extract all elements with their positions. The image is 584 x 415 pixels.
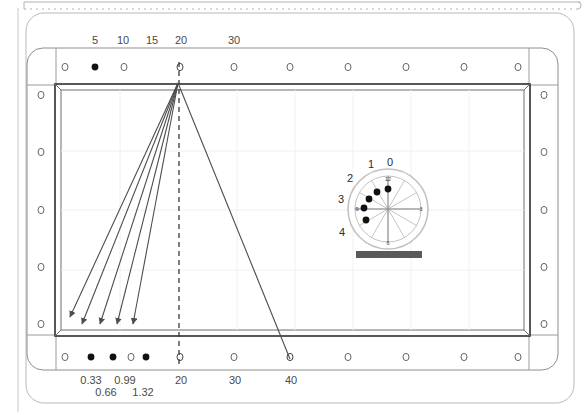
rail-diamond: [177, 353, 183, 360]
dial-tip-dot: [385, 186, 392, 193]
rail-diamond: [62, 353, 68, 360]
top-axis-label: 5: [92, 34, 98, 46]
dial-inner-label-3: 3: [419, 206, 422, 212]
dial-tip-dot: [374, 189, 381, 196]
bottom-axis-label: 1.32: [132, 386, 153, 398]
rail-diamond: [345, 353, 351, 360]
rail-diamond-filled: [143, 354, 150, 361]
dial-outer-label-0: 0: [387, 156, 393, 168]
dial-base-bar: [356, 251, 422, 258]
rail-diamond: [177, 63, 183, 70]
top-dotted-strip: [24, 2, 581, 9]
rail-diamond: [461, 63, 467, 70]
rail-diamond: [121, 63, 127, 70]
diagram-canvas: 5 10 15 20 30 0.33 0.66 0.99 1.32 20 30 …: [0, 0, 584, 415]
rail-diamond-filled: [92, 64, 99, 71]
rail-diamond: [461, 353, 467, 360]
dial-tip-dot: [361, 205, 368, 212]
rail-diamond: [38, 148, 44, 155]
rail-diamond: [403, 63, 409, 70]
dial-outer-label-1: 1: [368, 158, 374, 170]
dial-inner-label-12: 12: [385, 176, 391, 182]
dial-tip-dot: [363, 217, 370, 224]
rail-diamond: [541, 91, 547, 98]
rail-diamond: [231, 353, 237, 360]
bottom-axis-label: 40: [285, 374, 297, 386]
rail-diamond: [38, 91, 44, 98]
bottom-axis-labels: 0.33 0.66 0.99 1.32 20 30 40: [80, 374, 297, 398]
rail-diamond: [231, 63, 237, 70]
rail-diamond: [403, 353, 409, 360]
rail-diamond: [541, 320, 547, 327]
top-axis-label: 15: [146, 34, 158, 46]
rail-diamond: [38, 263, 44, 270]
bottom-axis-label: 0.66: [95, 386, 116, 398]
rail-diamond-filled: [88, 354, 95, 361]
rail-diamond: [128, 353, 134, 360]
top-axis-label: 10: [117, 34, 129, 46]
bottom-axis-label: 0.33: [80, 374, 101, 386]
rail-diamond: [345, 63, 351, 70]
dial-hub: [386, 207, 389, 210]
bottom-axis-label: 20: [175, 374, 187, 386]
rail-diamond: [287, 63, 293, 70]
top-axis-label: 20: [175, 34, 187, 46]
dial-inner-label-9: 9: [355, 206, 358, 212]
bottom-axis-label: 30: [229, 374, 241, 386]
dial-inner-label-6: 6: [386, 240, 389, 246]
rail-diamond: [38, 206, 44, 213]
rail-diamond: [62, 63, 68, 70]
rail-diamond-filled: [110, 354, 117, 361]
dial-tip-dot: [366, 196, 373, 203]
rail-diamond: [541, 206, 547, 213]
rail-diamond: [515, 353, 521, 360]
rail-diamond: [541, 148, 547, 155]
rail-diamond: [541, 263, 547, 270]
bottom-axis-label: 0.99: [114, 374, 135, 386]
dial-outer-label-3: 3: [338, 193, 344, 205]
top-axis-label: 30: [228, 34, 240, 46]
dial-outer-label-2: 2: [347, 172, 353, 184]
dial-outer-label-4: 4: [339, 226, 345, 238]
rail-diamond: [38, 320, 44, 327]
top-axis-labels: 5 10 15 20 30: [92, 34, 240, 46]
rail-diamond: [515, 63, 521, 70]
